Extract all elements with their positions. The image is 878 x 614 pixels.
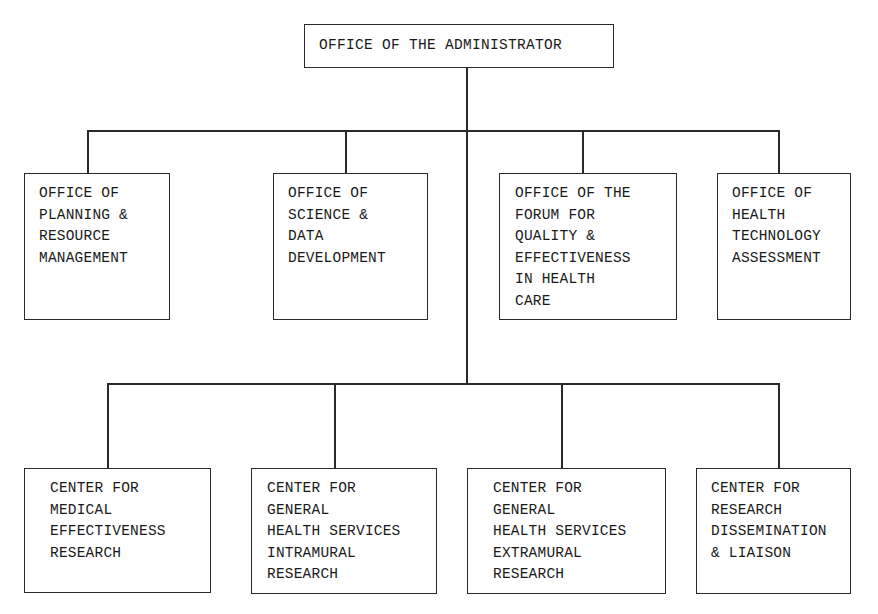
office-box-text: OFFICE OF PLANNING & RESOURCE MANAGEMENT bbox=[39, 183, 128, 269]
box-text-line: RESEARCH bbox=[50, 543, 166, 565]
connector-office-4 bbox=[778, 130, 780, 173]
root-box-office-of-the-administrator: OFFICE OF THE ADMINISTRATOR bbox=[304, 24, 614, 68]
box-text-line: GENERAL bbox=[493, 500, 627, 522]
office-box-text: OFFICE OF THE FORUM FOR QUALITY & EFFECT… bbox=[515, 183, 631, 312]
box-text-line: MEDICAL bbox=[50, 500, 166, 522]
box-text-line: OFFICE OF bbox=[732, 183, 821, 205]
box-text-line: HEALTH bbox=[732, 205, 821, 227]
connector-center-3 bbox=[561, 383, 563, 468]
center-box-research-dissemination-liaison: CENTER FOR RESEARCH DISSEMINATION & LIAI… bbox=[696, 468, 851, 594]
box-text-line: PLANNING & bbox=[39, 205, 128, 227]
office-box-text: OFFICE OF SCIENCE & DATA DEVELOPMENT bbox=[288, 183, 386, 269]
center-box-text: CENTER FOR RESEARCH DISSEMINATION & LIAI… bbox=[711, 478, 827, 564]
box-text-line: TECHNOLOGY bbox=[732, 226, 821, 248]
box-text-line: QUALITY & bbox=[515, 226, 631, 248]
root-label: OFFICE OF THE ADMINISTRATOR bbox=[319, 37, 562, 53]
box-text-line: DEVELOPMENT bbox=[288, 248, 386, 270]
box-text-line: EXTRAMURAL bbox=[493, 543, 627, 565]
box-text-line: CENTER FOR bbox=[493, 478, 627, 500]
box-text-line: MANAGEMENT bbox=[39, 248, 128, 270]
connector-office-1 bbox=[87, 130, 89, 173]
center-box-general-health-services-intramural: CENTER FOR GENERAL HEALTH SERVICES INTRA… bbox=[251, 468, 437, 594]
connector-offices-bar bbox=[87, 130, 779, 132]
box-text-line: CARE bbox=[515, 291, 631, 313]
box-text-line: INTRAMURAL bbox=[267, 543, 401, 565]
box-text-line: DATA bbox=[288, 226, 386, 248]
office-box-forum-quality-effectiveness: OFFICE OF THE FORUM FOR QUALITY & EFFECT… bbox=[499, 173, 677, 320]
box-text-line: FORUM FOR bbox=[515, 205, 631, 227]
box-text-line: CENTER FOR bbox=[711, 478, 827, 500]
box-text-line: & LIAISON bbox=[711, 543, 827, 565]
office-box-text: OFFICE OF HEALTH TECHNOLOGY ASSESSMENT bbox=[732, 183, 821, 269]
connector-center-2 bbox=[334, 383, 336, 468]
box-text-line: CENTER FOR bbox=[50, 478, 166, 500]
box-text-line: IN HEALTH bbox=[515, 269, 631, 291]
box-text-line: OFFICE OF THE bbox=[515, 183, 631, 205]
box-text-line: EFFECTIVENESS bbox=[50, 521, 166, 543]
box-text-line: OFFICE OF bbox=[39, 183, 128, 205]
center-box-text: CENTER FOR MEDICAL EFFECTIVENESS RESEARC… bbox=[50, 478, 166, 564]
office-box-science-data-development: OFFICE OF SCIENCE & DATA DEVELOPMENT bbox=[273, 173, 428, 320]
box-text-line: GENERAL bbox=[267, 500, 401, 522]
connector-office-2 bbox=[345, 130, 347, 173]
center-box-text: CENTER FOR GENERAL HEALTH SERVICES INTRA… bbox=[267, 478, 401, 586]
connector-office-3 bbox=[582, 130, 584, 173]
box-text-line: SCIENCE & bbox=[288, 205, 386, 227]
center-box-text: CENTER FOR GENERAL HEALTH SERVICES EXTRA… bbox=[493, 478, 627, 586]
connector-trunk bbox=[466, 67, 468, 384]
box-text-line: RESOURCE bbox=[39, 226, 128, 248]
office-box-planning-resource-management: OFFICE OF PLANNING & RESOURCE MANAGEMENT bbox=[24, 173, 170, 320]
box-text-line: EFFECTIVENESS bbox=[515, 248, 631, 270]
box-text-line: DISSEMINATION bbox=[711, 521, 827, 543]
box-text-line: RESEARCH bbox=[711, 500, 827, 522]
center-box-general-health-services-extramural: CENTER FOR GENERAL HEALTH SERVICES EXTRA… bbox=[467, 468, 666, 594]
box-text-line: HEALTH SERVICES bbox=[267, 521, 401, 543]
connector-centers-bar bbox=[107, 383, 779, 385]
box-text-line: CENTER FOR bbox=[267, 478, 401, 500]
office-box-health-technology-assessment: OFFICE OF HEALTH TECHNOLOGY ASSESSMENT bbox=[717, 173, 851, 320]
box-text-line: OFFICE OF bbox=[288, 183, 386, 205]
box-text-line: RESEARCH bbox=[493, 564, 627, 586]
box-text-line: ASSESSMENT bbox=[732, 248, 821, 270]
box-text-line: RESEARCH bbox=[267, 564, 401, 586]
connector-center-4 bbox=[778, 383, 780, 468]
box-text-line: HEALTH SERVICES bbox=[493, 521, 627, 543]
connector-center-1 bbox=[107, 383, 109, 468]
center-box-medical-effectiveness-research: CENTER FOR MEDICAL EFFECTIVENESS RESEARC… bbox=[24, 468, 211, 593]
